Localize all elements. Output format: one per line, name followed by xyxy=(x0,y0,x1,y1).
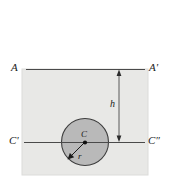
label-r: r xyxy=(78,152,82,161)
figure-canvas xyxy=(0,0,169,187)
label-c-prime: C' xyxy=(9,135,19,146)
label-a-prime: A' xyxy=(149,62,158,73)
label-a: A xyxy=(11,62,18,73)
figure-container: A A' C' C″ h C r xyxy=(0,0,169,187)
label-h: h xyxy=(110,99,115,109)
circle-center-dot xyxy=(83,140,87,144)
label-center-c: C xyxy=(81,130,87,139)
label-c-double-prime: C″ xyxy=(148,135,160,146)
